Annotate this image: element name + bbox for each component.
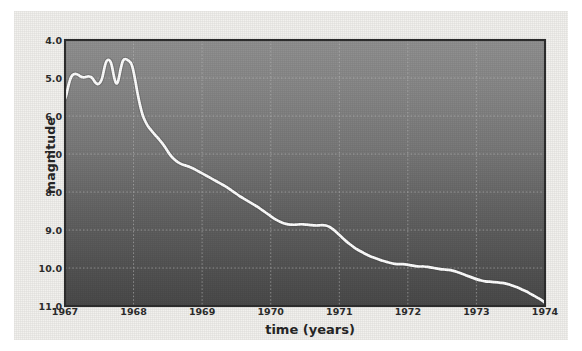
x-tick-1973: 1973 — [453, 306, 499, 317]
light-curve-chart — [0, 0, 582, 351]
x-tick-1971: 1971 — [316, 306, 362, 317]
y-axis-title: magnitude — [43, 96, 58, 216]
y-tick-9: 9.0 — [28, 225, 62, 236]
x-tick-1967: 1967 — [42, 306, 88, 317]
x-tick-1970: 1970 — [248, 306, 294, 317]
x-tick-1969: 1969 — [179, 306, 225, 317]
y-tick-10: 10.0 — [28, 263, 62, 274]
x-axis-tick-labels: 1967 1968 1969 1970 1971 1972 1973 1974 — [0, 306, 582, 322]
y-tick-5: 5.0 — [28, 73, 62, 84]
x-tick-1974: 1974 — [522, 306, 568, 317]
x-tick-1968: 1968 — [111, 306, 157, 317]
y-tick-4: 4.0 — [28, 35, 62, 46]
figure-root: 4.0 5.0 6.0 7.0 8.0 9.0 10.0 11.0 1967 1… — [0, 0, 582, 351]
x-tick-1972: 1972 — [385, 306, 431, 317]
x-axis-title: time (years) — [180, 322, 440, 337]
